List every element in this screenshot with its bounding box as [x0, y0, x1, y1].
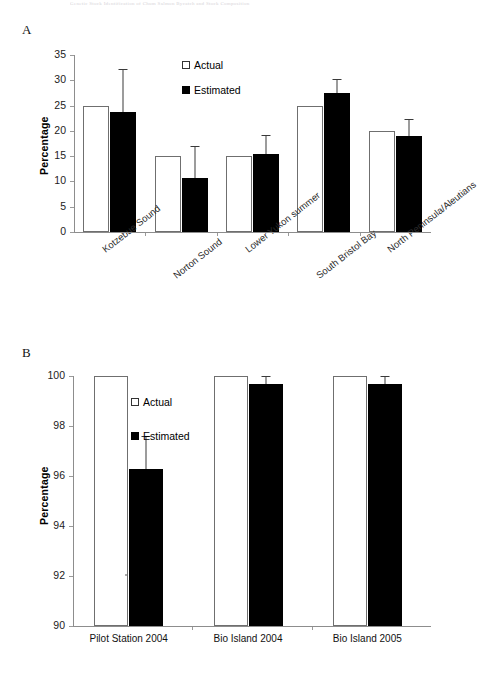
error-bar-cap — [261, 376, 270, 377]
chart-a-y-tick-label: 15 — [40, 149, 66, 161]
chart-b-error-bar — [368, 376, 402, 384]
chart-b-y-axis-line — [73, 376, 74, 626]
chart-a-y-tick-label: 25 — [40, 99, 66, 111]
chart-a-bar-estimated — [182, 178, 208, 232]
chart-a-bar-estimated — [396, 136, 422, 232]
chart-b-y-tick-label: 94 — [39, 519, 65, 531]
estimated-swatch-icon — [131, 432, 139, 440]
actual-swatch-icon — [131, 398, 139, 406]
scan-speck — [125, 574, 127, 576]
chart-a-y-tick-label: 30 — [40, 73, 66, 85]
error-bar-stem — [123, 69, 124, 111]
chart-a-bar-estimated — [324, 93, 350, 232]
chart-b-bar-actual — [333, 376, 367, 626]
chart-b-bar-estimated — [249, 384, 283, 627]
chart-b-bar-estimated — [368, 384, 402, 627]
error-bar-cap — [190, 146, 199, 147]
error-bar-stem — [408, 119, 409, 137]
error-bar-cap — [333, 79, 342, 80]
error-bar-cap — [262, 135, 271, 136]
chart-a-legend-actual-label: Actual — [194, 58, 223, 72]
chart-b-legend-estimated-label: Estimated — [143, 429, 190, 443]
error-bar-cap — [404, 119, 413, 120]
chart-a-error-bar — [110, 69, 136, 111]
error-bar-stem — [266, 135, 267, 153]
chart-a-x-axis-line — [74, 232, 431, 233]
chart-a-error-bar — [396, 119, 422, 137]
actual-swatch-icon — [182, 61, 190, 69]
estimated-swatch-icon — [182, 86, 190, 94]
error-bar-stem — [194, 146, 195, 178]
chart-a-bar-actual — [369, 131, 395, 232]
chart-b-x-axis-line — [73, 626, 431, 627]
chart-b-y-tick-label: 100 — [39, 369, 65, 381]
chart-a-y-tick-label: 5 — [40, 200, 66, 212]
chart-a-y-axis-line — [74, 55, 75, 233]
error-bar-cap — [119, 69, 128, 70]
chart-a-bar-actual — [155, 156, 181, 232]
chart-b-y-tick-label: 92 — [39, 569, 65, 581]
chart-b-bar-actual — [214, 376, 248, 626]
chart-b-y-tick-label: 90 — [39, 619, 65, 631]
chart-a-legend-estimated-label: Estimated — [194, 83, 241, 97]
error-bar-stem — [384, 376, 385, 384]
chart-a-error-bar — [324, 79, 350, 93]
chart-a-x-category-label: Norton Sound — [171, 236, 224, 281]
chart-b-x-category-label: Bio Island 2004 — [188, 633, 307, 644]
error-bar-stem — [337, 79, 338, 93]
chart-a-error-bar — [253, 135, 279, 153]
error-bar-cap — [380, 376, 389, 377]
chart-a-y-tick-label: 10 — [40, 174, 66, 186]
chart-b-x-category-label: Pilot Station 2004 — [69, 633, 188, 644]
chart-b-bar-estimated — [129, 469, 163, 627]
chart-b-x-category-label: Bio Island 2005 — [308, 633, 427, 644]
chart-b-legend-actual-label: Actual — [143, 395, 172, 409]
chart-a-y-tick-label: 0 — [40, 225, 66, 237]
chart-b-bar-actual — [94, 376, 128, 626]
chart-a-bar-actual — [83, 106, 109, 232]
chart-panel-a: Percentage 05101520253035 Kotzebue Sound… — [0, 0, 444, 340]
chart-a-x-category-label: South Bristol Bay — [314, 227, 378, 281]
chart-a-error-bar — [182, 146, 208, 178]
chart-b-y-tick-label: 96 — [39, 469, 65, 481]
chart-a-y-tick-label: 35 — [40, 48, 66, 60]
chart-b-y-tick-label: 98 — [39, 419, 65, 431]
error-bar-stem — [265, 376, 266, 384]
chart-a-y-tick-label: 20 — [40, 124, 66, 136]
chart-panel-b: Percentage 9092949698100 Pilot Station 2… — [0, 340, 444, 689]
chart-a-bar-actual — [226, 156, 252, 232]
chart-a-bar-estimated — [110, 112, 136, 232]
chart-b-error-bar — [249, 376, 283, 384]
